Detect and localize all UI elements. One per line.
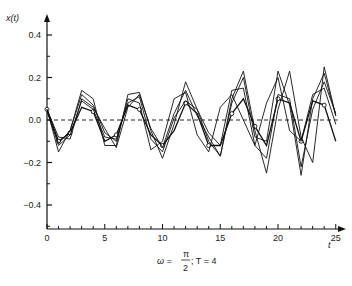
y-tick-label: 0.0 [28,115,41,125]
x-ticks: 0510152025 [44,224,340,243]
x-tick-label: 25 [331,233,341,243]
x-tick-label: 20 [273,233,283,243]
x-axis-arrow-icon [338,226,346,232]
y-ticks: 0.40.20.0−0.2−0.4 [23,30,52,226]
caption: ω = π 2 ; T = 4 [157,249,216,273]
data-point-marker [230,112,234,116]
x-tick-label: 0 [44,233,49,243]
y-tick-label: 0.4 [28,30,41,40]
svg-text:π: π [183,249,189,259]
data-point-marker [322,103,326,107]
svg-text:ω =: ω = [157,256,172,266]
x-tick-label: 5 [102,233,107,243]
y-tick-label: −0.2 [23,158,41,168]
y-axis-label: x(t) [5,13,19,23]
line-chart: 0.40.20.0−0.2−0.4 0510152025 x(t) t ω = … [0,0,352,286]
y-tick-label: −0.4 [23,200,41,210]
x-tick-label: 15 [215,233,225,243]
y-axis-arrow-icon [44,14,50,22]
svg-text:; T = 4: ; T = 4 [191,256,216,266]
axes [44,14,346,232]
series-group [45,67,336,175]
svg-text:2: 2 [183,263,188,273]
x-tick-label: 10 [157,233,167,243]
y-tick-label: 0.2 [28,73,41,83]
